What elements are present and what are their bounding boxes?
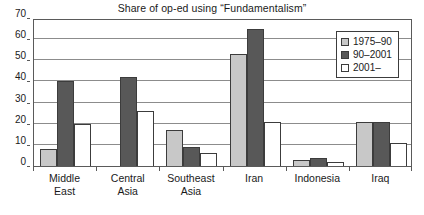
bar xyxy=(166,130,183,166)
y-tick-mark-50 xyxy=(27,60,30,61)
y-tick-mark-20 xyxy=(27,124,30,125)
y-axis: 010203040506070 xyxy=(0,19,30,167)
bar xyxy=(247,29,264,166)
x-label-line: Iraq xyxy=(371,172,389,185)
legend-item: 1975–90 xyxy=(341,35,392,48)
x-label-line: Indonesia xyxy=(294,172,340,185)
y-tick-label-0: 0 xyxy=(20,157,26,167)
bar-group xyxy=(230,20,281,166)
bar xyxy=(264,122,281,166)
legend: 1975–9090–20012001– xyxy=(336,31,399,78)
y-tick-label-60: 60 xyxy=(15,30,26,40)
y-tick-mark-40 xyxy=(27,81,30,82)
bar xyxy=(200,153,217,166)
bar xyxy=(183,147,200,166)
bar-chart: Share of op-ed using “Fundamentalism” 01… xyxy=(0,0,424,215)
legend-item: 2001– xyxy=(341,61,392,74)
legend-swatch-icon xyxy=(341,38,349,46)
y-tick-mark-60 xyxy=(27,39,30,40)
legend-label: 2001– xyxy=(353,63,381,73)
bar xyxy=(373,122,390,166)
bar xyxy=(390,143,407,166)
x-label-line: Asia xyxy=(167,185,214,198)
y-tick-mark-30 xyxy=(27,103,30,104)
y-tick-label-50: 50 xyxy=(15,51,26,61)
y-tick-label-20: 20 xyxy=(15,115,26,125)
x-label-line: Central xyxy=(111,172,145,185)
bar xyxy=(356,122,373,166)
y-tick-mark-0 xyxy=(27,166,30,167)
x-tick xyxy=(33,167,34,171)
x-axis-labels: MiddleEastCentralAsiaSoutheastAsiaIranIn… xyxy=(33,172,412,212)
bar xyxy=(57,81,74,166)
x-tick xyxy=(96,167,97,171)
bar xyxy=(327,162,344,166)
x-axis-ticks xyxy=(33,167,412,171)
x-axis-category-label: SoutheastAsia xyxy=(167,172,214,197)
y-tick-mark-10 xyxy=(27,145,30,146)
bar-group xyxy=(40,20,91,166)
x-tick xyxy=(286,167,287,171)
legend-label: 1975–90 xyxy=(353,37,392,47)
x-tick xyxy=(223,167,224,171)
x-axis-category-label: Indonesia xyxy=(294,172,340,185)
bar-group xyxy=(103,20,154,166)
legend-swatch-icon xyxy=(341,64,349,72)
bar xyxy=(40,149,57,166)
x-tick xyxy=(159,167,160,171)
x-label-line: Middle xyxy=(49,172,80,185)
chart-title: Share of op-ed using “Fundamentalism” xyxy=(0,2,424,14)
y-tick-mark-70 xyxy=(27,18,30,19)
bar xyxy=(74,124,91,166)
x-tick xyxy=(349,167,350,171)
x-label-line: Asia xyxy=(111,185,145,198)
bar xyxy=(137,111,154,166)
legend-swatch-icon xyxy=(341,51,349,59)
y-tick-label-40: 40 xyxy=(15,72,26,82)
bar xyxy=(293,160,310,166)
legend-item: 90–2001 xyxy=(341,48,392,61)
x-label-line: Iran xyxy=(245,172,263,185)
y-tick-label-30: 30 xyxy=(15,94,26,104)
x-axis-category-label: CentralAsia xyxy=(111,172,145,197)
bar xyxy=(120,77,137,166)
x-label-line: Southeast xyxy=(167,172,214,185)
legend-label: 90–2001 xyxy=(353,50,392,60)
bar-group xyxy=(166,20,217,166)
x-tick xyxy=(411,167,412,171)
x-axis-category-label: MiddleEast xyxy=(49,172,80,197)
y-tick-label-10: 10 xyxy=(15,136,26,146)
y-tick-label-70: 70 xyxy=(15,9,26,19)
x-axis-category-label: Iraq xyxy=(371,172,389,185)
x-label-line: East xyxy=(49,185,80,198)
bar xyxy=(310,158,327,166)
bar xyxy=(230,54,247,166)
x-axis-category-label: Iran xyxy=(245,172,263,185)
